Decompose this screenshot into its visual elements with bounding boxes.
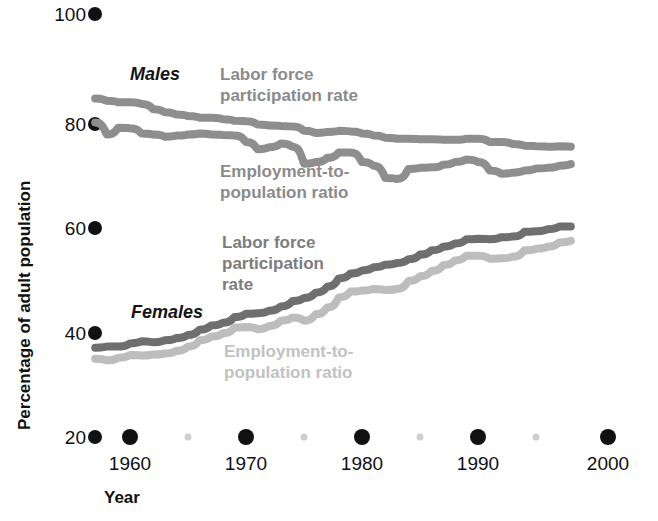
y-tick-label-40: 40 (65, 323, 86, 344)
series-line-2 (95, 227, 571, 348)
y-tick-dot-20 (88, 430, 102, 444)
x-tick-label-1970: 1970 (225, 453, 267, 474)
x-tick-dot-1965 (185, 434, 192, 441)
y-tick-dot-40 (88, 326, 102, 340)
y-tick-label-80: 80 (65, 114, 86, 135)
x-tick-label-1980: 1980 (341, 453, 383, 474)
annotation-males-lfp-line2: participation rate (220, 86, 358, 105)
x-tick-dot-1975 (301, 434, 308, 441)
x-tick-dot-1970 (238, 429, 254, 445)
y-tick-dot-60 (88, 221, 102, 235)
y-tick-label-20: 20 (65, 427, 86, 448)
x-tick-dot-2000 (600, 429, 616, 445)
annotation-males-epr-line2: population ratio (220, 183, 348, 202)
x-tick-dot-1990 (470, 429, 486, 445)
annotation-females-lfp-line2: participation (222, 254, 324, 273)
y-tick-dot-100 (88, 7, 102, 21)
x-tick-dot-1960 (122, 429, 138, 445)
y-tick-label-60: 60 (65, 218, 86, 239)
x-tick-dot-1985 (417, 434, 424, 441)
annotation-males-group: Males (130, 64, 180, 84)
annotation-females-group: Females (131, 302, 203, 322)
x-axis-title: Year (104, 488, 140, 507)
annotation-males-lfp-line1: Labor force (220, 65, 314, 84)
annotation-females-lfp-line1: Labor force (222, 233, 316, 252)
x-tick-dot-1980 (354, 429, 370, 445)
annotation-females-epr-line1: Employment-to- (224, 342, 353, 361)
y-axis-title: Percentage of adult population (15, 181, 34, 430)
y-tick-label-100: 100 (54, 4, 86, 25)
labor-force-chart: 100 80 60 40 20 Percentage of adult popu… (0, 0, 658, 521)
x-tick-dot-1995 (533, 434, 540, 441)
x-axis-ticks (122, 429, 616, 445)
x-tick-label-1990: 1990 (457, 453, 499, 474)
x-tick-label-1960: 1960 (109, 453, 151, 474)
x-tick-label-2000: 2000 (587, 453, 629, 474)
annotation-males-epr-line1: Employment-to- (220, 162, 349, 181)
annotation-females-epr-line2: population ratio (224, 363, 352, 382)
y-axis: 100 80 60 40 20 (54, 4, 102, 448)
annotation-females-lfp-line3: rate (222, 275, 253, 294)
x-axis-labels: 1960 1970 1980 1990 2000 (109, 453, 629, 474)
